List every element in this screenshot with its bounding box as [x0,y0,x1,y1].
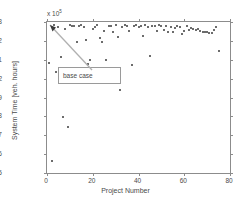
data-point [165,25,167,27]
x-axis-tick-label: 80 [225,177,232,184]
data-point [105,59,107,61]
data-point [172,31,174,33]
data-point [156,30,158,32]
data-point [167,31,169,33]
data-point [87,63,89,65]
data-point [89,59,91,61]
y-axis-tick [230,22,233,23]
data-point [96,24,98,26]
annotation-label: base case [63,72,93,79]
data-point [101,41,103,43]
x-axis-tick [93,19,94,22]
y-axis-tick [230,135,233,136]
data-point [163,29,165,31]
data-point [154,25,156,27]
data-point [147,26,149,28]
data-point [110,25,112,27]
y-axis-tick [44,79,47,80]
data-point [76,41,78,43]
y-axis-tick [230,98,233,99]
x-axis-tick [47,19,48,22]
y-axis-tick [230,116,233,117]
data-point [48,62,50,64]
data-point [85,39,87,41]
y-axis-exponent-mantissa: x 10 [47,10,59,17]
y-axis-tick-label: 1.996 [0,150,2,157]
x-axis-title: Project Number [0,187,251,194]
y-axis-exponent-power: 5 [59,9,62,14]
data-point [149,55,151,57]
annotation-box: base case [58,67,121,84]
data-point [218,50,220,52]
y-axis-tick-label: 2.001 [0,55,2,62]
data-point [55,71,57,73]
data-point [99,37,101,39]
data-point [131,64,133,66]
y-axis-tick-label: 2 [0,74,2,81]
data-point [179,26,181,28]
y-axis-tick-label: 1.999 [0,93,2,100]
y-axis-title: System Time [veh. hours] [11,31,18,171]
data-point [94,26,96,28]
y-axis-tick [230,79,233,80]
data-point [53,24,55,26]
y-axis-tick [44,116,47,117]
x-axis-tick [139,173,140,176]
data-point [170,26,172,28]
x-axis-tick-label: 20 [88,177,95,184]
data-point [51,160,53,162]
y-axis-tick-label: 2.002 [0,36,2,43]
y-axis-tick [44,41,47,42]
data-point [160,25,162,27]
data-point [174,27,176,29]
data-point [62,116,64,118]
x-axis-tick-label: 60 [180,177,187,184]
y-axis-tick [44,22,47,23]
data-point [112,31,114,33]
y-axis-exponent-label: x 105 [47,9,62,17]
data-point [126,25,128,27]
x-axis-tick [47,173,48,176]
data-point [138,26,140,28]
x-axis-tick [139,19,140,22]
data-point [128,30,130,32]
y-axis-tick [230,60,233,61]
data-point [57,26,59,28]
data-point [121,26,123,28]
data-point [119,89,121,91]
x-axis-tick [184,173,185,176]
y-axis-tick [44,135,47,136]
scatter-chart-figure: x 105 base case Project Number System Ti… [0,0,251,205]
plot-area [47,22,230,173]
data-point [142,35,144,37]
y-axis-tick [230,41,233,42]
x-axis-tick [93,173,94,176]
y-axis-tick-label: 1.998 [0,112,2,119]
data-point [211,32,213,34]
x-axis-tick-label: 0 [44,177,48,184]
data-point [140,25,142,27]
y-axis-tick [44,60,47,61]
data-point [117,36,119,38]
data-point [183,30,185,32]
data-point [181,33,183,35]
data-point [103,30,105,32]
data-point [215,26,217,28]
y-axis-tick-label: 1.997 [0,131,2,138]
y-axis-tick [44,98,47,99]
data-point [83,26,85,28]
data-point [64,28,66,30]
data-point [67,126,69,128]
y-axis-tick-label: 1.995 [0,169,2,176]
x-axis-tick [230,19,231,22]
x-axis-tick [184,19,185,22]
data-point [73,25,75,27]
data-point [92,28,94,30]
data-point [60,56,62,58]
y-axis-tick [44,154,47,155]
data-point [213,29,215,31]
data-point [186,25,188,27]
data-point [115,24,117,26]
y-axis-tick [230,154,233,155]
y-axis-tick-label: 2.003 [0,18,2,25]
